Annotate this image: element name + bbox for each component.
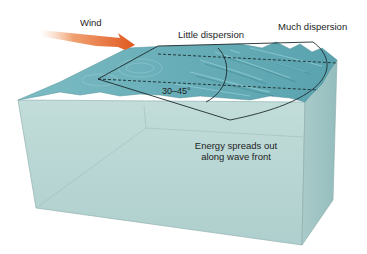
wind-arrow	[40, 30, 135, 50]
water-body-front-face	[18, 100, 305, 245]
energy-spread-caption: Energy spreads out along wave front	[176, 140, 296, 162]
much-dispersion-label: Much dispersion	[278, 21, 347, 32]
angle-label: 30–45°	[162, 86, 191, 97]
wind-label: Wind	[80, 17, 102, 28]
energy-caption-line1: Energy spreads out	[176, 140, 296, 151]
little-dispersion-label: Little dispersion	[178, 29, 244, 40]
energy-caption-line2: along wave front	[176, 151, 296, 162]
